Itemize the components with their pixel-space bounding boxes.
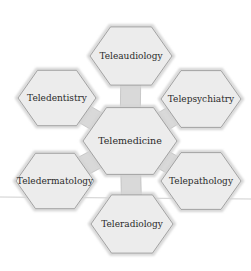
node-label-telepsychiatry: Telepsychiatry (168, 94, 235, 104)
telemedicine-hexagon-diagram: Telemedicine Teleaudiology Telepsychiatr… (0, 0, 251, 271)
center-label-telemedicine: Telemedicine (98, 135, 162, 146)
node-label-telepathology: Telepathology (169, 176, 234, 186)
node-label-teleaudiology: Teleaudiology (99, 51, 163, 61)
node-label-teledentistry: Teledentistry (27, 93, 88, 103)
node-label-teledermatology: Teledermatology (17, 176, 94, 186)
node-label-teleradiology: Teleradiology (101, 219, 164, 229)
